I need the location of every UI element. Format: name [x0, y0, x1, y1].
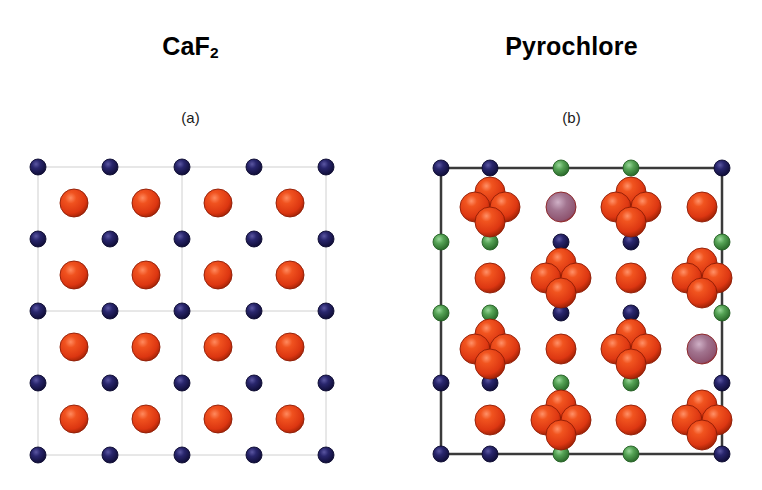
caf2-calcium-atom: [318, 303, 334, 319]
panel-pyrochlore: Pyrochlore (b): [381, 0, 762, 490]
pyrochlore-b-cation-navy-site: [433, 160, 449, 176]
caf2-fluorine-atom: [132, 333, 160, 361]
caf2-calcium-atom: [102, 447, 118, 463]
caf2-calcium-atom: [318, 447, 334, 463]
caf2-calcium-atom: [318, 159, 334, 175]
pyrochlore-o-single-site: [475, 263, 505, 293]
caf2-fluorine-atom: [276, 405, 304, 433]
pyrochlore-a-cation-green-site: [623, 160, 639, 176]
caf2-calcium-atom: [246, 303, 262, 319]
pyrochlore-o-single-site: [546, 334, 576, 364]
caf2-calcium-atom: [174, 231, 190, 247]
caf2-fluorine-atom: [60, 405, 88, 433]
pyrochlore-structure-diagram: [415, 150, 760, 475]
pyrochlore-a-cation-green-site: [553, 160, 569, 176]
pyrochlore-o-tetrahedron-site: [687, 420, 717, 450]
pyrochlore-o-vacancy-site-site: [687, 334, 717, 364]
pyrochlore-a-cation-green-site: [623, 446, 639, 462]
caf2-fluorine-atom: [276, 261, 304, 289]
caf2-calcium-atom: [246, 375, 262, 391]
pyrochlore-o-single-site: [475, 405, 505, 435]
caf2-calcium-atom: [30, 375, 46, 391]
caf2-calcium-atom: [174, 375, 190, 391]
caf2-calcium-atom: [174, 159, 190, 175]
caf2-fluorine-atom: [132, 261, 160, 289]
panel-caf2-caption: (a): [0, 110, 381, 125]
caf2-calcium-atom: [246, 447, 262, 463]
caf2-calcium-atom: [102, 375, 118, 391]
pyrochlore-a-cation-green-site: [553, 375, 569, 391]
pyrochlore-b-cation-navy-site: [482, 446, 498, 462]
pyrochlore-a-cation-green-site: [433, 234, 449, 250]
panel-caf2-title-subscript: 2: [210, 44, 219, 61]
caf2-calcium-atom: [30, 159, 46, 175]
caf2-fluorine-atom: [204, 189, 232, 217]
caf2-fluorine-atom: [204, 333, 232, 361]
caf2-calcium-atom: [318, 231, 334, 247]
caf2-calcium-atom: [30, 447, 46, 463]
pyrochlore-o-single-site: [616, 405, 646, 435]
panel-caf2: CaF2 (a): [0, 0, 381, 490]
panel-pyrochlore-title-main: Pyrochlore: [505, 32, 638, 60]
pyrochlore-o-single-site: [687, 192, 717, 222]
pyrochlore-b-cation-navy-site: [433, 375, 449, 391]
panel-pyrochlore-title: Pyrochlore: [381, 34, 762, 59]
pyrochlore-atom-sites: [433, 160, 732, 462]
pyrochlore-b-cation-navy-site: [433, 446, 449, 462]
pyrochlore-b-cation-navy-site: [714, 446, 730, 462]
caf2-calcium-atom: [30, 231, 46, 247]
caf2-calcium-atom: [174, 303, 190, 319]
caf2-structure-diagram: [10, 150, 355, 475]
caf2-fluorine-atom: [204, 261, 232, 289]
pyrochlore-o-vacancy-site-site: [546, 192, 576, 222]
pyrochlore-b-cation-navy-site: [482, 160, 498, 176]
caf2-calcium-atom: [102, 303, 118, 319]
figure-root: CaF2 (a) Pyrochlore (b): [0, 0, 762, 490]
caf2-calcium-atom: [318, 375, 334, 391]
caf2-calcium-atom: [174, 447, 190, 463]
caf2-fluorine-atom: [60, 261, 88, 289]
pyrochlore-b-cation-navy-site: [714, 375, 730, 391]
panel-caf2-title-main: CaF: [162, 32, 210, 60]
pyrochlore-o-tetrahedron-site: [475, 207, 505, 237]
pyrochlore-a-cation-green-site: [714, 234, 730, 250]
caf2-fluorine-atom: [276, 189, 304, 217]
caf2-calcium-atom: [102, 231, 118, 247]
caf2-calcium-atom: [246, 231, 262, 247]
caf2-calcium-atom: [102, 159, 118, 175]
caf2-fluorine-atom: [132, 405, 160, 433]
caf2-fluorine-atom: [132, 189, 160, 217]
pyrochlore-o-tetrahedron-site: [687, 278, 717, 308]
caf2-fluorine-atom: [60, 333, 88, 361]
caf2-fluorine-atom: [204, 405, 232, 433]
pyrochlore-o-single-site: [616, 263, 646, 293]
pyrochlore-a-cation-green-site: [433, 305, 449, 321]
caf2-fluorine-atom: [276, 333, 304, 361]
pyrochlore-o-tetrahedron-site: [546, 420, 576, 450]
pyrochlore-o-tetrahedron-site: [546, 278, 576, 308]
panel-caf2-title: CaF2: [0, 34, 381, 59]
caf2-calcium-atom: [30, 303, 46, 319]
pyrochlore-a-cation-green-site: [714, 305, 730, 321]
pyrochlore-b-cation-navy-site: [714, 160, 730, 176]
caf2-calcium-atom: [246, 159, 262, 175]
pyrochlore-o-tetrahedron-site: [616, 207, 646, 237]
panel-pyrochlore-caption: (b): [381, 110, 762, 125]
pyrochlore-o-tetrahedron-site: [616, 349, 646, 379]
caf2-fluorine-atom: [60, 189, 88, 217]
pyrochlore-o-tetrahedron-site: [475, 349, 505, 379]
